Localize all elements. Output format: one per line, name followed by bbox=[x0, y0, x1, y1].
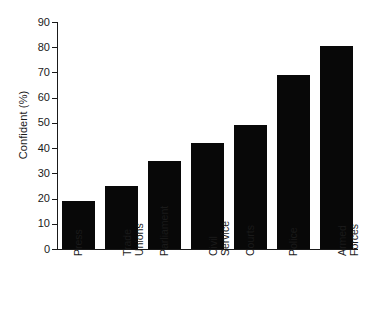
y-tick-label: 0 bbox=[26, 244, 50, 255]
y-tick-label: 60 bbox=[26, 92, 50, 103]
x-tick-label: Armed Forces bbox=[337, 184, 360, 256]
y-tick-label: 70 bbox=[26, 67, 50, 78]
y-tick-label: 40 bbox=[26, 143, 50, 154]
x-tick-label: Press bbox=[73, 184, 85, 256]
bar-chart-figure: Confident (%) 0102030405060708090 PressT… bbox=[0, 0, 379, 328]
y-tick-label: 80 bbox=[26, 42, 50, 53]
x-tick-label: Police bbox=[288, 184, 300, 256]
x-tick-label: Trade Unions bbox=[122, 184, 145, 256]
y-tick-label: 90 bbox=[26, 17, 50, 28]
x-tick-label: Parliament bbox=[159, 184, 171, 256]
x-tick-label: Courts bbox=[245, 184, 257, 256]
y-tick-label: 30 bbox=[26, 168, 50, 179]
y-tick-label: 10 bbox=[26, 218, 50, 229]
y-tick-label: 20 bbox=[26, 193, 50, 204]
y-tick-label: 50 bbox=[26, 117, 50, 128]
x-tick-label: Civil Service bbox=[208, 184, 231, 256]
